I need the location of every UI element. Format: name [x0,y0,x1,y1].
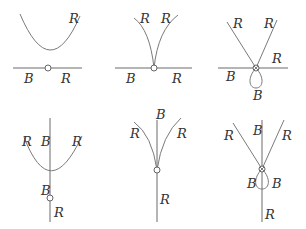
diagram-canvas: R B R R R B R R R R B B R B R B R B R R … [0,0,306,229]
diagonal-line-right [262,120,284,169]
label-r: R [72,135,82,148]
label-r: R [172,72,182,85]
label-r: R [69,12,79,25]
label-r: R [161,12,171,25]
label-b: B [247,177,257,190]
label-b: B [41,184,51,197]
label-r: R [264,17,274,30]
label-r: R [61,72,71,85]
label-b: B [253,89,263,102]
label-r: R [265,208,275,221]
label-r: R [54,206,64,219]
node-circle [151,65,157,71]
label-b: B [24,72,34,85]
label-r: R [177,127,187,140]
label-b: B [126,72,136,85]
label-r: R [160,193,170,206]
label-r: R [130,127,140,140]
label-b: B [156,108,166,121]
node-circle [154,167,160,173]
panel-bottom-middle [134,118,181,222]
panel-top-middle [115,15,192,71]
label-r: R [140,12,150,25]
label-b: B [272,177,282,190]
label-r: R [233,17,243,30]
label-r: R [272,52,282,65]
label-r: R [224,129,234,142]
label-b: B [253,124,263,137]
label-r: R [22,135,32,148]
label-r: R [282,129,292,142]
label-b: B [41,135,51,148]
node-circle [45,65,51,71]
label-b: B [226,70,236,83]
